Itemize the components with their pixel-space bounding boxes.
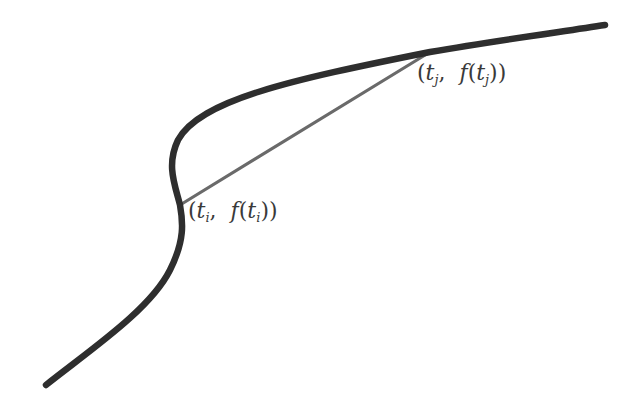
secant-line bbox=[180, 52, 430, 205]
var-t: t bbox=[247, 198, 256, 223]
point-label-tj: (tj, f(tj)) bbox=[417, 62, 506, 86]
paren-open: ( bbox=[188, 198, 197, 223]
func-f: f bbox=[231, 198, 239, 223]
comma: , bbox=[438, 60, 452, 85]
paren-open: ( bbox=[417, 60, 426, 85]
func-f: f bbox=[459, 60, 467, 85]
paren-close: )) bbox=[489, 60, 506, 85]
function-curve bbox=[46, 25, 605, 385]
paren-close: )) bbox=[260, 198, 277, 223]
comma: , bbox=[210, 198, 224, 223]
point-label-ti: (ti, f(ti)) bbox=[188, 200, 278, 224]
curve-diagram bbox=[0, 0, 640, 409]
paren-open: ( bbox=[468, 60, 477, 85]
var-t: t bbox=[476, 60, 485, 85]
